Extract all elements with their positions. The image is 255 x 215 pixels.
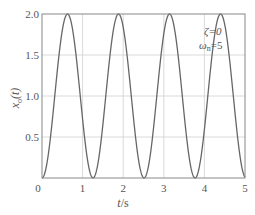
x-tick-label: 4 [202,182,208,194]
response-chart: 012345 0.51.01.52.0 t/s xo(t) ζ=0 ωn=5 [0,0,255,215]
annotation-zeta: ζ=0 [204,25,222,38]
x-tick-label: 1 [80,182,86,194]
x-tick-label: 3 [161,182,167,194]
y-tick-label: 1.0 [25,90,39,102]
x-tick-label: 5 [242,182,248,194]
x-tick-label: 2 [120,182,126,194]
y-axis-label: xo(t) [8,88,24,110]
y-tick-label: 1.5 [25,49,39,61]
x-axis-label: t/s [117,196,129,210]
annotation-omega: ωn=5 [199,39,223,53]
y-tick-label: 0.5 [25,131,39,143]
y-tick-label: 2.0 [25,8,39,20]
x-tick-labels: 012345 [35,182,248,194]
x-tick-label: 0 [35,182,41,194]
y-tick-labels: 0.51.01.52.0 [25,8,39,143]
